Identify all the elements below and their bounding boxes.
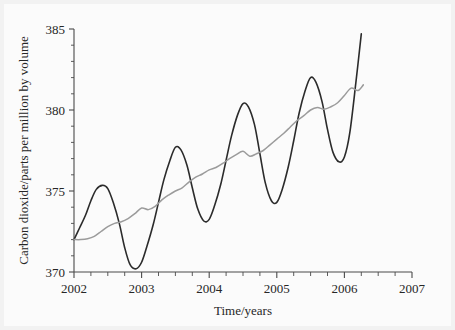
series-monthly-mean-co2 — [74, 34, 361, 269]
chart-figure: 370375380385200220032004200520062007Time… — [0, 0, 455, 330]
y-tick-label: 370 — [46, 265, 66, 280]
y-tick-label: 380 — [46, 103, 66, 118]
x-tick-label: 2002 — [61, 281, 87, 296]
co2-line-chart: 370375380385200220032004200520062007Time… — [0, 0, 455, 330]
x-tick-label: 2006 — [331, 281, 358, 296]
y-tick-label: 385 — [46, 22, 66, 37]
axes-group — [69, 29, 412, 278]
x-tick-label: 2007 — [399, 281, 426, 296]
y-axis-title: Carbon dioxide/parts per million by volu… — [16, 36, 31, 265]
labels-group: 370375380385200220032004200520062007Time… — [16, 22, 426, 318]
x-axis-title: Time/years — [214, 303, 272, 318]
x-tick-label: 2003 — [129, 281, 155, 296]
series-group — [74, 34, 363, 269]
y-tick-label: 375 — [46, 184, 66, 199]
x-tick-label: 2004 — [196, 281, 223, 296]
x-tick-label: 2005 — [264, 281, 290, 296]
